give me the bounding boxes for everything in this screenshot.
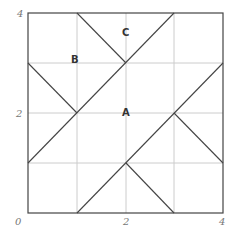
y-tick-2: 2: [15, 108, 22, 119]
segment-3: [28, 63, 77, 113]
segment-6: [126, 163, 174, 213]
x-tick-0: 0: [15, 216, 22, 227]
segment-1: [77, 13, 126, 63]
x-tick-2: 2: [122, 216, 129, 227]
point-labels: A B C: [71, 27, 130, 118]
y-tick-4: 4: [16, 8, 23, 19]
point-label-b: B: [71, 54, 79, 65]
segment-4: [77, 63, 223, 213]
point-label-c: C: [122, 27, 129, 38]
segment-2: [28, 13, 174, 163]
point-label-a: A: [122, 107, 130, 118]
diagram-canvas: 4 2 0 2 4 A B C: [0, 0, 237, 240]
segment-5: [174, 113, 223, 163]
tick-labels: 4 2 0 2 4: [15, 8, 225, 227]
x-tick-4: 4: [218, 216, 225, 227]
